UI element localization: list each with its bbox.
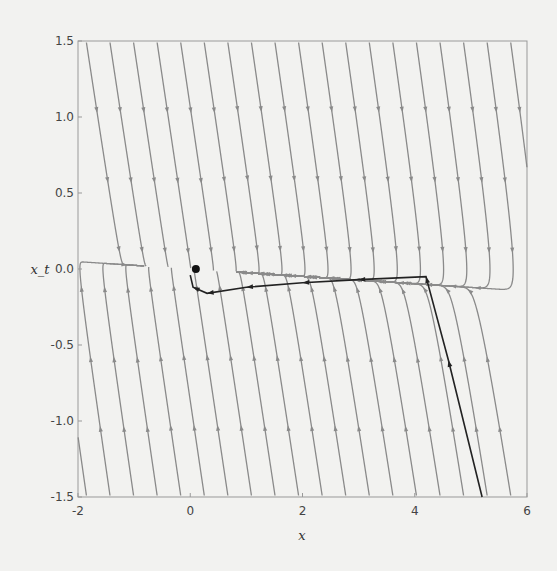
arrow-head: [381, 426, 385, 432]
arrow-head: [423, 287, 428, 293]
arrow-head: [193, 425, 197, 431]
streamline: [236, 272, 416, 495]
arrow-head: [329, 106, 333, 112]
trajectory-line: [190, 275, 482, 497]
arrow-head: [357, 426, 361, 432]
streamline: [236, 43, 305, 277]
streamline: [80, 262, 144, 495]
trajectory-arrow: [448, 360, 453, 367]
streamline: [236, 43, 351, 280]
arrow-head: [206, 355, 210, 361]
x-tick-label: 4: [411, 504, 419, 518]
streamline: [236, 43, 328, 278]
arrow-head: [235, 106, 239, 112]
arrow-head: [259, 106, 263, 112]
arrow-head: [222, 177, 226, 183]
arrow-head: [510, 248, 514, 254]
x-tick-label: 2: [299, 504, 307, 518]
arrow-head: [334, 425, 338, 431]
x-tick-label: -2: [72, 504, 84, 518]
fixed-point: [192, 265, 200, 273]
arrow-head: [112, 357, 116, 363]
arrow-head: [310, 286, 314, 292]
streamline: [236, 43, 282, 275]
arrow-head: [404, 426, 408, 432]
arrow-head: [129, 177, 133, 183]
arrow-head: [252, 355, 256, 361]
arrow-head: [356, 287, 360, 293]
arrow-head: [122, 426, 126, 432]
arrow-head: [229, 355, 233, 361]
arrow-head: [240, 425, 244, 431]
arrow-head: [105, 177, 109, 183]
streamline: [236, 43, 443, 285]
arrow-head: [188, 107, 192, 113]
arrow-head: [475, 286, 481, 290]
arrow-head: [445, 288, 450, 294]
arrow-head: [402, 288, 406, 294]
arrow-head: [216, 425, 220, 431]
trajectory-arrow: [207, 290, 214, 295]
arrow-head: [287, 425, 291, 431]
streamline: [78, 437, 86, 495]
y-tick-label: 0.0: [55, 262, 74, 276]
plot-frame: [78, 41, 527, 497]
y-tick-label: -1.0: [51, 414, 74, 428]
trajectory-arrow: [303, 280, 310, 285]
trajectory-arrow: [193, 287, 200, 292]
streamline: [110, 43, 146, 267]
arrow-head: [146, 426, 150, 432]
arrow-head: [245, 175, 249, 181]
y-axis-label: x_t: [30, 262, 50, 277]
arrow-head: [306, 106, 310, 112]
arrow-head: [182, 354, 186, 360]
arrow-head: [99, 426, 103, 432]
y-tick-label: 0.5: [55, 186, 74, 200]
arrow-head: [333, 286, 337, 292]
arrow-head: [94, 107, 98, 113]
arrow-head: [310, 425, 314, 431]
streamline: [236, 272, 511, 495]
arrow-head: [136, 357, 140, 363]
phase-portrait-chart: -20246-1.5-1.0-0.50.00.51.01.5 x x_t: [0, 0, 557, 571]
arrow-head: [263, 425, 267, 431]
streamline: [236, 43, 420, 284]
arrow-head: [468, 289, 474, 294]
arrow-head: [199, 178, 203, 184]
streamline: [236, 272, 322, 495]
trajectory-arrow: [425, 277, 430, 284]
arrow-head: [159, 356, 163, 362]
arrow-head: [169, 425, 173, 431]
streamline: [103, 263, 144, 495]
arrow-head: [282, 106, 286, 112]
x-tick-label: 0: [186, 504, 194, 518]
arrow-head: [212, 107, 216, 113]
arrow-head: [152, 177, 156, 183]
arrow-head: [141, 107, 145, 113]
x-axis-label: x: [298, 528, 306, 543]
arrow-head: [165, 107, 169, 113]
y-tick-label: 1.0: [55, 110, 74, 124]
arrow-head: [186, 248, 190, 254]
arrow-head: [379, 287, 383, 293]
streamline: [236, 272, 369, 495]
chart-svg: -20246-1.5-1.0-0.50.00.51.01.5 x x_t: [0, 0, 557, 571]
arrow-head: [118, 107, 122, 113]
streamline: [236, 43, 466, 287]
y-tick-label: -0.5: [51, 338, 74, 352]
arrow-head: [276, 355, 280, 361]
y-tick-label: 1.5: [55, 34, 74, 48]
x-tick-label: 6: [523, 504, 531, 518]
y-tick-label: -1.5: [51, 490, 74, 504]
arrow-head: [175, 178, 179, 184]
streamline: [511, 43, 527, 168]
streamlines: [78, 43, 527, 496]
streamline: [237, 272, 346, 495]
arrow-head: [299, 355, 303, 361]
